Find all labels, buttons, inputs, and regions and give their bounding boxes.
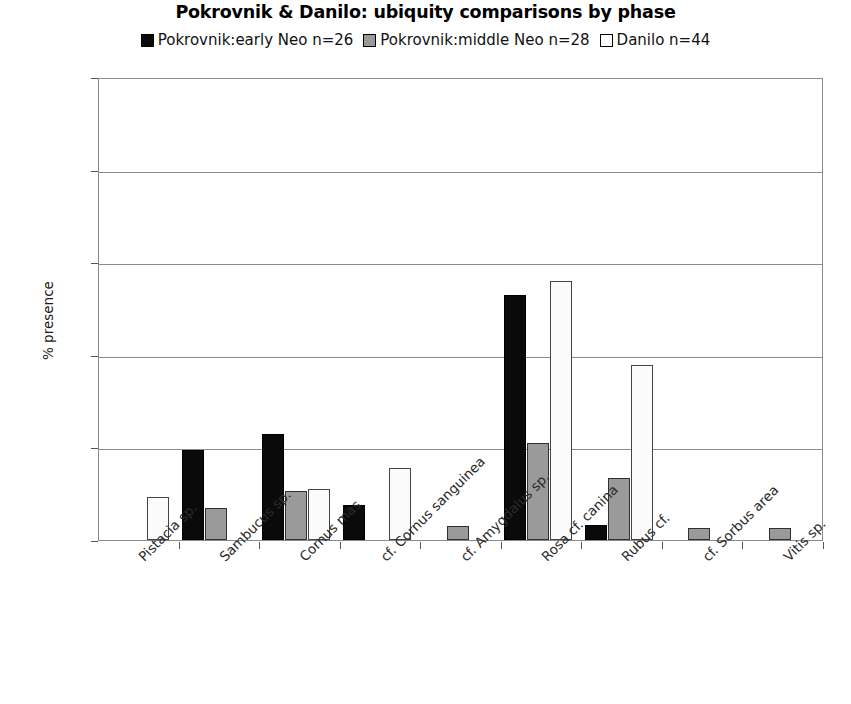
y-tick-mark	[91, 171, 98, 172]
bar	[769, 528, 791, 540]
bar	[631, 365, 653, 540]
y-tick-mark	[91, 78, 98, 79]
x-tick-mark	[179, 542, 180, 549]
chart-title: Pokrovnik & Danilo: ubiquity comparisons…	[0, 2, 851, 22]
bar	[550, 281, 572, 540]
y-axis-title: % presence	[40, 281, 56, 360]
x-tick-mark	[581, 542, 582, 549]
legend-label-1: Pokrovnik:middle Neo n=28	[380, 31, 589, 49]
y-tick-mark	[91, 356, 98, 357]
legend-item-2: Danilo n=44	[600, 31, 711, 49]
legend-label-0: Pokrovnik:early Neo n=26	[158, 31, 354, 49]
y-tick-mark	[91, 448, 98, 449]
y-tick-mark	[91, 541, 98, 542]
x-tick-mark	[662, 542, 663, 549]
chart-legend: Pokrovnik:early Neo n=26 Pokrovnik:middl…	[0, 31, 851, 49]
legend-item-1: Pokrovnik:middle Neo n=28	[363, 31, 589, 49]
bar	[688, 528, 710, 540]
bar	[205, 508, 227, 540]
x-tick-mark	[742, 542, 743, 549]
y-tick-mark	[91, 263, 98, 264]
bar-chart: Pokrovnik & Danilo: ubiquity comparisons…	[0, 0, 851, 704]
x-tick-mark	[340, 542, 341, 549]
legend-swatch-gray-icon	[363, 34, 376, 47]
legend-item-0: Pokrovnik:early Neo n=26	[141, 31, 354, 49]
bar	[182, 450, 204, 540]
x-tick-mark	[420, 542, 421, 549]
x-tick-mark	[501, 542, 502, 549]
x-tick-mark	[259, 542, 260, 549]
legend-label-2: Danilo n=44	[617, 31, 711, 49]
legend-swatch-black-icon	[141, 34, 154, 47]
x-tick-mark	[823, 542, 824, 549]
legend-swatch-white-icon	[600, 34, 613, 47]
bar	[585, 525, 607, 540]
bar	[447, 526, 469, 540]
